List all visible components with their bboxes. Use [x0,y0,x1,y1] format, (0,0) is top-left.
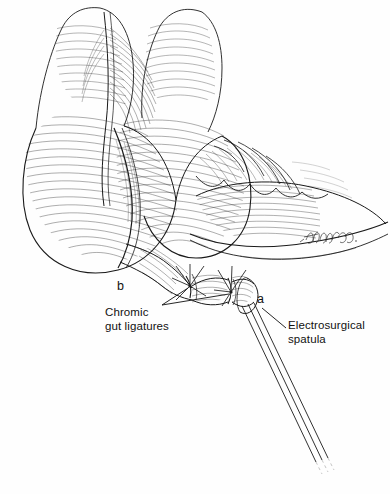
distal-knot-node [229,290,232,293]
surgical-illustration-figure: Chromic gut ligatures Electrosurgical sp… [0,0,390,494]
label-electrosurgical-spatula: Electrosurgical spatula [288,318,365,347]
canvas-background [0,0,390,494]
label-marker-b: b [117,279,124,295]
label-chromic-gut-ligatures: Chromic gut ligatures [105,305,169,334]
illustration-canvas [0,0,390,494]
label-marker-a: a [257,292,264,308]
proximal-knot-node [188,284,191,287]
